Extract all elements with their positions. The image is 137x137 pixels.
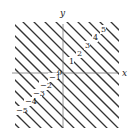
y-axis-label: y bbox=[59, 8, 66, 18]
level-line bbox=[0, 0, 84, 137]
level-line bbox=[0, 0, 106, 137]
level-line bbox=[0, 0, 137, 137]
level-line bbox=[0, 0, 137, 137]
x-axis-label: x bbox=[122, 68, 127, 78]
level-line bbox=[0, 0, 137, 137]
level-line bbox=[0, 0, 137, 137]
level-line bbox=[20, 0, 137, 137]
level-label: 1 bbox=[69, 57, 74, 66]
level-label: 4 bbox=[93, 33, 98, 42]
level-label: 3 bbox=[85, 41, 90, 50]
level-line bbox=[0, 0, 137, 137]
level-label: 5 bbox=[101, 25, 106, 34]
level-lines bbox=[0, 0, 137, 137]
level-line bbox=[0, 0, 137, 137]
level-line bbox=[0, 0, 137, 137]
level-label: −4 bbox=[25, 97, 37, 106]
level-line bbox=[0, 0, 137, 137]
level-line bbox=[0, 0, 137, 137]
level-line bbox=[0, 0, 137, 137]
level-label: −5 bbox=[16, 106, 28, 115]
level-label: 2 bbox=[77, 49, 82, 58]
contour-diagram: x y 0 54321−1−2−3−4−5 bbox=[0, 0, 137, 137]
